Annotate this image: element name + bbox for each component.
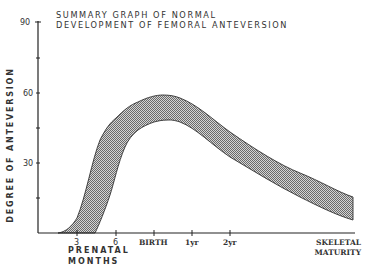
y-tick-60: 60 [23, 89, 33, 98]
x-tick-1yr: 1yr [185, 238, 200, 247]
y-tick-30: 30 [23, 159, 33, 168]
maturity-label: MATURITY [314, 248, 361, 258]
x-tick-birth: BIRTH [139, 238, 168, 247]
x-axis-label-months: MONTHS [68, 257, 119, 266]
y-tick-90: 90 [20, 18, 30, 27]
skeletal-label: SKELETAL [314, 238, 361, 248]
x-axis-label-prenatal: PRENATAL [68, 246, 130, 255]
x-tick-2yr: 2yr [223, 238, 238, 247]
chart-plot: 90 60 30 3 6 BIRTH 1yr 2yr [0, 0, 367, 271]
anteversion-range-band [58, 95, 353, 233]
x-tick-skeletal-maturity: SKELETAL MATURITY [314, 238, 361, 258]
